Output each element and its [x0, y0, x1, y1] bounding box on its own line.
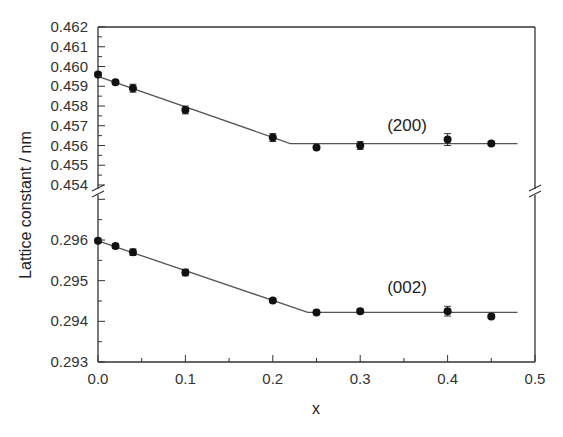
data-point [269, 297, 277, 305]
x-axis: 0.00.10.20.30.40.5 [88, 355, 546, 387]
data-point [444, 136, 452, 144]
data-point [356, 142, 364, 150]
y-tick-label: 0.455 [50, 156, 88, 173]
data-point [487, 140, 495, 148]
series-label-200: (200) [387, 116, 427, 135]
data-point [313, 308, 321, 316]
data-point [94, 70, 102, 78]
x-axis-title: x [312, 400, 320, 417]
x-tick-label: 0.4 [437, 370, 458, 387]
y-tick-label: 0.293 [50, 353, 88, 370]
data-point [487, 312, 495, 320]
data-point [181, 106, 189, 114]
series-label-002: (002) [387, 278, 427, 297]
y-tick-label: 0.460 [50, 58, 88, 75]
data-point [444, 307, 452, 315]
data-point [181, 269, 189, 277]
x-tick-label: 0.2 [262, 370, 283, 387]
y-tick-label: 0.462 [50, 18, 88, 35]
data-point [356, 307, 364, 315]
x-tick-label: 0.0 [88, 370, 109, 387]
x-tick-label: 0.3 [350, 370, 371, 387]
x-tick-label: 0.5 [525, 370, 546, 387]
y-axis-title: Lattice constant / nm [17, 131, 34, 279]
data-point [129, 248, 137, 256]
y-tick-label: 0.454 [50, 176, 88, 193]
data-point [111, 242, 119, 250]
data-point [111, 78, 119, 86]
y-tick-label: 0.461 [50, 38, 88, 55]
lattice-constant-chart: 0.00.10.20.30.40.5 0.4540.4550.4560.4570… [0, 0, 563, 437]
data-point [269, 134, 277, 142]
fit-line [98, 241, 518, 313]
y-tick-label: 0.296 [50, 231, 88, 248]
y-tick-label: 0.294 [50, 312, 88, 329]
y-tick-label: 0.459 [50, 77, 88, 94]
upper-panel-200 [94, 70, 518, 151]
x-tick-label: 0.1 [175, 370, 196, 387]
y-tick-label: 0.456 [50, 137, 88, 154]
data-point [313, 143, 321, 151]
y-tick-label: 0.457 [50, 117, 88, 134]
lower-panel-002 [94, 237, 518, 321]
y-tick-label: 0.458 [50, 97, 88, 114]
data-point [94, 237, 102, 245]
fit-line [98, 76, 518, 143]
axis-break-marks [92, 185, 541, 197]
data-point [129, 84, 137, 92]
y-tick-label: 0.295 [50, 272, 88, 289]
